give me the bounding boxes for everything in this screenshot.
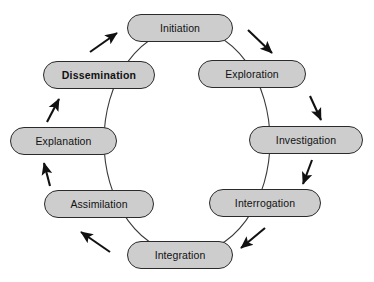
node-integration-label: Integration <box>155 250 206 261</box>
node-initiation[interactable]: Initiation <box>127 14 233 42</box>
node-dissemination-label: Dissemination <box>62 70 136 81</box>
node-integration[interactable]: Integration <box>127 241 233 269</box>
arrow-initiation-to-exploration <box>248 30 272 53</box>
arrow-exploration-to-investigation <box>310 96 321 120</box>
cycle-diagram: Initiation Exploration Investigation Int… <box>0 0 374 282</box>
node-explanation[interactable]: Explanation <box>10 127 117 155</box>
arrow-interrogation-to-integration <box>241 228 265 248</box>
node-exploration-label: Exploration <box>225 69 279 80</box>
node-assimilation[interactable]: Assimilation <box>44 190 154 218</box>
node-explanation-label: Explanation <box>36 136 92 147</box>
arrow-investigation-to-interrogation <box>303 160 312 184</box>
arrow-assimilation-to-explanation <box>44 163 50 186</box>
node-exploration[interactable]: Exploration <box>198 60 306 88</box>
node-investigation[interactable]: Investigation <box>249 126 363 154</box>
node-interrogation-label: Interrogation <box>235 198 295 209</box>
arrow-explanation-to-dissemination <box>47 99 59 122</box>
arrow-integration-to-assimilation <box>81 232 110 252</box>
node-investigation-label: Investigation <box>276 135 336 146</box>
node-dissemination[interactable]: Dissemination <box>43 61 155 89</box>
node-assimilation-label: Assimilation <box>70 199 127 210</box>
node-interrogation[interactable]: Interrogation <box>209 189 321 217</box>
node-initiation-label: Initiation <box>160 23 200 34</box>
arrow-dissemination-to-initiation <box>90 33 117 52</box>
